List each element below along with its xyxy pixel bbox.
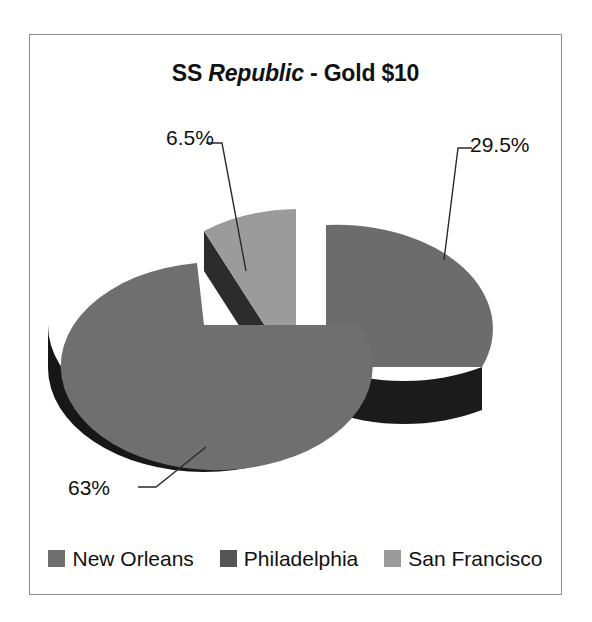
legend-label-new-orleans: New Orleans (72, 548, 193, 569)
data-label-san-francisco: 6.5% (166, 126, 214, 150)
leader-line-philadelphia (444, 148, 472, 260)
legend-item-new-orleans[interactable]: New Orleans (48, 548, 193, 569)
pie-slice-new-orleans (48, 263, 373, 472)
legend-swatch-philadelphia (220, 550, 237, 567)
legend-item-san-francisco[interactable]: San Francisco (384, 548, 542, 569)
legend-swatch-new-orleans (48, 550, 65, 567)
legend-item-philadelphia[interactable]: Philadelphia (220, 548, 358, 569)
legend-label-philadelphia: Philadelphia (244, 548, 358, 569)
chart-legend: New Orleans Philadelphia San Francisco (29, 540, 562, 576)
pie-graphic (30, 35, 561, 525)
data-label-philadelphia: 29.5% (470, 133, 530, 157)
pie-chart-figure: SS Republic - Gold $10 (0, 0, 592, 622)
pie-slice-new-orleans-top (61, 263, 373, 470)
legend-swatch-san-francisco (384, 550, 401, 567)
data-label-new-orleans: 63% (68, 476, 110, 500)
pie-plot-area (30, 35, 561, 525)
legend-label-san-francisco: San Francisco (408, 548, 542, 569)
